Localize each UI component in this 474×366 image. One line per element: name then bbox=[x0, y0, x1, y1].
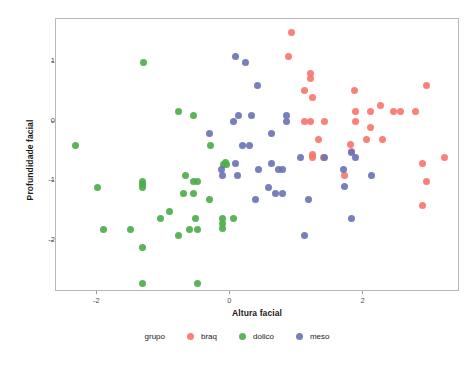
data-point bbox=[232, 53, 239, 60]
data-point bbox=[230, 118, 237, 125]
legend-item-dolico[interactable]: dolico bbox=[239, 332, 274, 341]
data-point bbox=[309, 94, 316, 101]
data-point bbox=[412, 108, 419, 115]
data-point bbox=[206, 196, 213, 203]
data-point bbox=[139, 184, 146, 191]
data-point bbox=[377, 102, 384, 109]
data-point bbox=[301, 232, 308, 239]
data-point bbox=[352, 118, 359, 125]
data-point bbox=[222, 159, 229, 166]
data-point bbox=[239, 142, 246, 149]
data-point bbox=[351, 87, 358, 94]
data-point bbox=[206, 130, 213, 137]
data-point bbox=[321, 154, 328, 161]
data-point bbox=[367, 124, 374, 131]
x-tick-label: -2 bbox=[81, 296, 111, 305]
data-point bbox=[279, 190, 286, 197]
data-point bbox=[283, 118, 290, 125]
data-point bbox=[186, 226, 193, 233]
data-point bbox=[352, 108, 359, 115]
data-point bbox=[423, 178, 430, 185]
x-tick-mark bbox=[96, 291, 97, 294]
data-point bbox=[309, 154, 316, 161]
data-point bbox=[307, 75, 314, 82]
data-point bbox=[248, 112, 255, 119]
data-point bbox=[321, 118, 328, 125]
data-point bbox=[419, 202, 426, 209]
legend-title: grupo bbox=[145, 332, 165, 341]
data-point bbox=[192, 215, 199, 222]
legend-label: meso bbox=[310, 332, 330, 341]
legend-key-icon bbox=[187, 333, 194, 340]
data-point bbox=[348, 215, 355, 222]
data-point bbox=[190, 190, 197, 197]
data-point bbox=[379, 136, 386, 143]
data-point bbox=[242, 59, 249, 66]
data-point bbox=[288, 29, 295, 36]
data-point bbox=[72, 142, 79, 149]
data-point bbox=[140, 59, 147, 66]
data-point bbox=[182, 172, 189, 179]
y-tick-label: 0 bbox=[25, 117, 55, 125]
data-point bbox=[297, 154, 304, 161]
data-point bbox=[341, 183, 348, 190]
data-point bbox=[363, 136, 370, 143]
data-point bbox=[268, 160, 275, 167]
data-point bbox=[347, 141, 354, 148]
data-point bbox=[255, 166, 262, 173]
data-point bbox=[301, 87, 308, 94]
y-tick-label: -1 bbox=[25, 176, 55, 184]
data-point bbox=[441, 154, 448, 161]
y-tick-label: 1 bbox=[25, 57, 55, 65]
data-point bbox=[175, 232, 182, 239]
data-point bbox=[100, 226, 107, 233]
data-point bbox=[279, 166, 286, 173]
legend-key-icon bbox=[239, 333, 246, 340]
data-point bbox=[307, 118, 314, 125]
y-tick-label: -2 bbox=[25, 236, 55, 244]
data-point bbox=[194, 178, 201, 185]
data-point bbox=[423, 82, 430, 89]
data-point bbox=[139, 280, 146, 287]
data-point bbox=[194, 226, 201, 233]
data-point bbox=[390, 108, 397, 115]
legend-item-braq[interactable]: braq bbox=[187, 332, 217, 341]
legend-label: braq bbox=[201, 332, 217, 341]
data-point bbox=[219, 225, 226, 232]
data-point bbox=[127, 226, 134, 233]
data-point bbox=[180, 190, 187, 197]
data-point bbox=[419, 160, 426, 167]
data-point bbox=[315, 136, 322, 143]
scatter-plot-figure: Profundidade facial 10-1-2 -202 Altura f… bbox=[0, 0, 474, 366]
data-point bbox=[232, 160, 239, 167]
data-point bbox=[190, 112, 197, 119]
data-point bbox=[340, 166, 347, 173]
data-point bbox=[230, 215, 237, 222]
data-point bbox=[94, 184, 101, 191]
x-tick-mark bbox=[229, 291, 230, 294]
data-point bbox=[234, 172, 241, 179]
x-tick-label: 0 bbox=[214, 296, 244, 305]
legend-label: dolico bbox=[253, 332, 274, 341]
legend-key-icon bbox=[296, 333, 303, 340]
data-point bbox=[254, 82, 261, 89]
x-axis-title: Altura facial bbox=[55, 308, 459, 318]
x-tick-mark bbox=[362, 291, 363, 294]
data-point bbox=[166, 208, 173, 215]
data-point bbox=[157, 215, 164, 222]
data-point bbox=[285, 53, 292, 60]
data-point bbox=[175, 108, 182, 115]
data-point bbox=[268, 130, 275, 137]
legend-item-meso[interactable]: meso bbox=[296, 332, 330, 341]
data-point bbox=[194, 280, 201, 287]
data-point bbox=[139, 244, 146, 251]
data-point bbox=[219, 172, 226, 179]
legend: grupo braqdolicomeso bbox=[0, 332, 474, 341]
x-tick-label: 2 bbox=[347, 296, 377, 305]
plot-panel bbox=[55, 18, 459, 291]
data-point bbox=[368, 172, 375, 179]
data-point bbox=[367, 108, 374, 115]
data-point bbox=[246, 142, 253, 149]
data-point bbox=[252, 196, 259, 203]
data-point bbox=[341, 172, 348, 179]
